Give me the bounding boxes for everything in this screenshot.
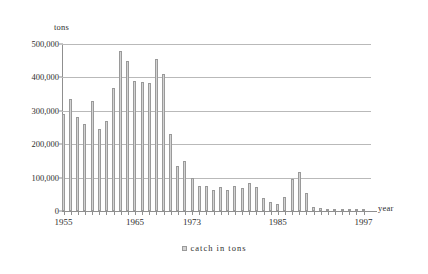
x-tick-mark (328, 211, 329, 215)
bar (255, 187, 258, 211)
bar (269, 202, 272, 211)
x-tick-mark (349, 211, 350, 215)
x-tick-mark (192, 211, 193, 215)
gridline (62, 111, 371, 112)
bar (148, 83, 151, 211)
bar (141, 82, 144, 211)
bar (133, 81, 136, 211)
y-tick-label: 500,000 (31, 39, 59, 49)
x-tick-mark (121, 211, 122, 215)
bar (283, 197, 286, 211)
bar (91, 101, 94, 211)
bar (183, 161, 186, 211)
x-axis-title: year (378, 203, 393, 213)
x-tick-label: 1985 (269, 217, 287, 227)
x-tick-mark (292, 211, 293, 215)
y-tick-label: 400,000 (31, 72, 59, 82)
x-tick-mark (214, 211, 215, 215)
x-tick-mark (99, 211, 100, 215)
bar (276, 204, 279, 211)
gridline (62, 178, 371, 179)
x-tick-mark (271, 211, 272, 215)
chart-figure: tons year 0100,000200,000300,000400,0005… (0, 0, 428, 274)
bar (298, 172, 301, 211)
bar (191, 178, 194, 211)
legend-label: catch in tons (191, 243, 247, 253)
bar (219, 187, 222, 211)
x-tick-mark (164, 211, 165, 215)
x-tick-mark (321, 211, 322, 215)
x-tick-mark (278, 211, 279, 215)
gridline (62, 144, 371, 145)
x-tick-mark (199, 211, 200, 215)
gridline (62, 77, 371, 78)
bar (98, 129, 101, 211)
y-tick-label: 300,000 (31, 106, 59, 116)
x-tick-mark (92, 211, 93, 215)
x-tick-mark (249, 211, 250, 215)
bar (169, 134, 172, 211)
x-tick-mark (299, 211, 300, 215)
bar (76, 117, 79, 211)
x-tick-mark (314, 211, 315, 215)
x-tick-mark (256, 211, 257, 215)
x-tick-mark (64, 211, 65, 215)
bar (83, 124, 86, 211)
bar (248, 183, 251, 211)
x-tick-label: 1965 (126, 217, 144, 227)
bar (262, 198, 265, 211)
x-tick-mark (356, 211, 357, 215)
x-tick-mark (235, 211, 236, 215)
x-tick-mark (242, 211, 243, 215)
bar (62, 114, 65, 211)
x-tick-mark (285, 211, 286, 215)
x-tick-mark (364, 211, 365, 215)
y-tick-label: 100,000 (31, 173, 59, 183)
bar (126, 61, 129, 211)
bar (291, 179, 294, 211)
bar (226, 190, 229, 211)
bar (112, 88, 115, 211)
legend-swatch-icon (182, 246, 187, 251)
x-axis-ticks: 19551965197319851997 (62, 211, 377, 217)
x-tick-mark (335, 211, 336, 215)
x-tick-label: 1955 (55, 217, 73, 227)
bar (198, 186, 201, 211)
bar (69, 99, 72, 211)
x-tick-mark (306, 211, 307, 215)
bar (241, 188, 244, 211)
x-tick-mark (106, 211, 107, 215)
bar (212, 190, 215, 211)
gridline (62, 44, 371, 45)
x-tick-label: 1997 (355, 217, 373, 227)
bar (176, 166, 179, 211)
x-tick-mark (128, 211, 129, 215)
x-tick-mark (71, 211, 72, 215)
x-tick-mark (142, 211, 143, 215)
x-tick-mark (171, 211, 172, 215)
bar (305, 193, 308, 211)
x-tick-mark (178, 211, 179, 215)
x-tick-label: 1973 (183, 217, 201, 227)
x-tick-mark (342, 211, 343, 215)
bar (162, 74, 165, 211)
x-tick-mark (264, 211, 265, 215)
plot-area (62, 44, 371, 211)
chart-legend: catch in tons (0, 243, 428, 253)
bar (105, 121, 108, 211)
x-tick-mark (228, 211, 229, 215)
y-axis-tick-labels: 0100,000200,000300,000400,000500,000 (0, 0, 59, 274)
x-tick-mark (135, 211, 136, 215)
x-tick-mark (85, 211, 86, 215)
bar (155, 59, 158, 211)
x-tick-mark (78, 211, 79, 215)
bar (119, 51, 122, 211)
x-tick-mark (114, 211, 115, 215)
y-tick-label: 200,000 (31, 139, 59, 149)
x-tick-mark (206, 211, 207, 215)
x-tick-mark (149, 211, 150, 215)
x-tick-mark (156, 211, 157, 215)
bar (233, 186, 236, 211)
x-tick-mark (221, 211, 222, 215)
bar (205, 186, 208, 211)
